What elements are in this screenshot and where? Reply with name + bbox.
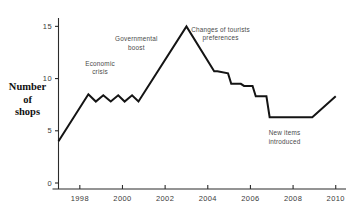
y-axis-title-line: Number xyxy=(9,81,47,92)
y-tick-label: 5 xyxy=(47,126,52,135)
chart-canvas: 051015 1998200020022004200620082010 Numb… xyxy=(0,0,352,221)
x-tick-label: 1998 xyxy=(71,194,89,203)
annotation-group: EconomiccrisisGovernmentalboostChanges o… xyxy=(85,26,300,145)
y-tick-label: 0 xyxy=(47,179,52,188)
annotation-economic-crisis: Economic xyxy=(85,60,115,67)
x-tick-label: 2002 xyxy=(156,194,174,203)
x-tick-label: 2006 xyxy=(241,194,259,203)
x-tick-label: 2004 xyxy=(199,194,217,203)
data-line xyxy=(59,26,336,141)
y-axis-title-line: shops xyxy=(15,106,40,117)
y-axis: 051015 xyxy=(43,18,59,189)
data-series-group xyxy=(59,26,336,141)
line-chart: 051015 1998200020022004200620082010 Numb… xyxy=(0,0,352,221)
annotation-changes-of-tourists-preferences: Changes of tourists xyxy=(191,26,250,34)
y-axis-title-line: of xyxy=(23,94,32,105)
x-axis: 1998200020022004200620082010 xyxy=(53,185,347,203)
annotation-governmental-boost: Governmental xyxy=(115,35,158,42)
x-tick-label: 2000 xyxy=(113,194,131,203)
x-tick-label: 2008 xyxy=(284,194,302,203)
annotation-changes-of-tourists-preferences: preferences xyxy=(203,34,239,42)
annotation-governmental-boost: boost xyxy=(128,44,145,51)
x-tick-group: 1998200020022004200620082010 xyxy=(71,185,345,203)
y-axis-title: Numberofshops xyxy=(9,81,47,117)
y-tick-label: 15 xyxy=(43,22,52,31)
annotation-economic-crisis: crisis xyxy=(92,68,108,75)
annotation-new-items-introduced: introduced xyxy=(269,138,301,145)
y-tick-group: 051015 xyxy=(43,22,59,188)
x-tick-label: 2010 xyxy=(327,194,345,203)
annotation-new-items-introduced: New items xyxy=(269,129,301,136)
